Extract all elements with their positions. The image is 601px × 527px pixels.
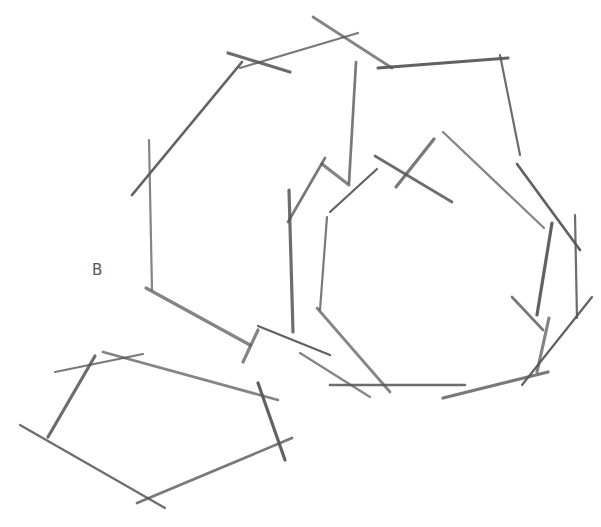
pencil-stroke [288,158,325,222]
pencil-stroke [240,33,358,68]
pencil-stroke [289,190,293,332]
pencil-stroke [20,425,165,508]
pencil-stroke [537,223,552,315]
pencil-stroke [103,352,278,400]
pencil-stroke [146,288,250,345]
pencil-stroke [349,62,356,183]
diagram-label: B [92,261,102,279]
polygon-sketch [0,0,601,527]
pencil-stroke [320,217,327,310]
pencil-stroke [322,164,349,185]
pencil-stroke [378,58,508,68]
pentagon-bottom-left [20,326,330,508]
sketch-strokes [20,17,592,508]
pencil-stroke [149,140,152,290]
pencil-stroke [500,55,520,155]
pencil-stroke [55,354,143,372]
pencil-stroke [522,297,592,385]
pencil-stroke [137,438,292,503]
pencil-stroke [243,330,258,362]
pencil-stroke [132,62,242,195]
sketch-canvas: B [0,0,601,527]
pencil-stroke [258,383,285,460]
large-heptagon-top-left [132,17,520,345]
pencil-stroke [300,353,370,397]
inner-ring-right [288,132,592,398]
pencil-stroke [575,215,577,318]
pencil-stroke [317,308,390,392]
